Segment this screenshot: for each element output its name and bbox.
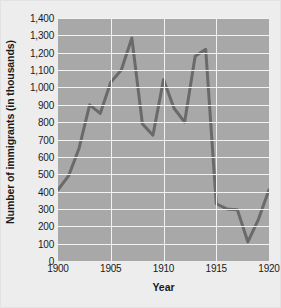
gridline-vertical bbox=[164, 18, 165, 261]
y-axis-tick-labels: 01002003004005006007008009001,0001,1001,… bbox=[17, 1, 57, 277]
y-tick-label: 1,300 bbox=[30, 30, 54, 41]
plot-area bbox=[58, 18, 269, 261]
y-tick-label: 1,000 bbox=[30, 82, 54, 93]
y-tick-label: 800 bbox=[38, 117, 54, 128]
y-tick-label: 100 bbox=[38, 238, 54, 249]
y-tick-label: 400 bbox=[38, 186, 54, 197]
x-tick-label: 1905 bbox=[100, 263, 121, 274]
y-tick-label: 600 bbox=[38, 151, 54, 162]
x-axis-title: Year bbox=[58, 281, 269, 293]
chart-figure: Number of immigrants (in thousands) 0100… bbox=[0, 0, 281, 308]
x-tick-label: 1900 bbox=[47, 263, 68, 274]
gridline-vertical bbox=[216, 18, 217, 261]
x-tick-label: 1920 bbox=[258, 263, 279, 274]
y-tick-label: 1,100 bbox=[30, 65, 54, 76]
y-tick-label: 1,400 bbox=[30, 13, 54, 24]
gridline-vertical bbox=[111, 18, 112, 261]
y-tick-label: 1,200 bbox=[30, 47, 54, 58]
y-axis-title-text: Number of immigrants (in thousands) bbox=[4, 40, 16, 224]
y-tick-label: 500 bbox=[38, 169, 54, 180]
y-tick-label: 300 bbox=[38, 203, 54, 214]
y-tick-label: 700 bbox=[38, 134, 54, 145]
x-axis-tick-labels: 19001905191019151920 bbox=[58, 263, 269, 279]
x-tick-label: 1910 bbox=[153, 263, 174, 274]
x-tick-label: 1915 bbox=[206, 263, 227, 274]
y-tick-label: 200 bbox=[38, 221, 54, 232]
y-tick-label: 900 bbox=[38, 99, 54, 110]
